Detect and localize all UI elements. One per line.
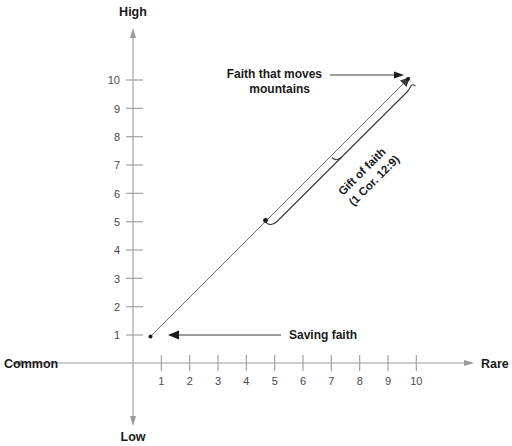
datapoint-faith-moves-mountains	[406, 77, 410, 81]
axis-label-low: Low	[121, 430, 146, 444]
saving-faith-label: Saving faith	[289, 328, 357, 342]
faith-continuum-chart: 1 2 3 4 5 6 7 8 9 10 1 2	[0, 0, 512, 446]
axes-group	[12, 28, 474, 426]
axis-label-rare: Rare	[481, 357, 509, 371]
x-tick-label-4: 4	[243, 375, 249, 387]
y-axis-ticks: 1 2 3 4 5 6 7 8 9 10	[108, 74, 143, 341]
y-tick-label-7: 7	[114, 159, 120, 171]
x-tick-label-9: 9	[385, 375, 391, 387]
x-axis-ticks: 1 2 3 4 5 6 7 8 9 10	[158, 355, 422, 387]
y-tick-label-3: 3	[114, 273, 120, 285]
saving-faith-callout-arrowhead	[168, 331, 179, 340]
annotation-gift-of-faith: Gift of faith (1 Cor. 12:9)	[336, 142, 402, 208]
y-tick-label-10: 10	[108, 74, 120, 86]
y-tick-label-6: 6	[114, 188, 120, 200]
mountains-label-line2: mountains	[249, 82, 310, 96]
x-tick-label-7: 7	[328, 375, 334, 387]
x-tick-label-6: 6	[300, 375, 306, 387]
x-tick-label-5: 5	[272, 375, 278, 387]
mountains-label-line1: Faith that moves	[227, 67, 323, 81]
datapoint-saving-faith	[149, 335, 153, 339]
axis-label-high: High	[119, 5, 147, 19]
y-tick-label-8: 8	[114, 131, 120, 143]
y-tick-label-4: 4	[114, 244, 120, 256]
chart-canvas: 1 2 3 4 5 6 7 8 9 10 1 2	[0, 0, 512, 446]
x-axis-right-arrowhead	[464, 360, 474, 366]
y-axis-down-arrowhead	[130, 416, 136, 426]
x-tick-label-10: 10	[410, 375, 422, 387]
series-diagonal-line	[152, 82, 405, 335]
annotation-saving-faith: Saving faith	[168, 328, 357, 342]
y-tick-label-2: 2	[114, 301, 120, 313]
x-tick-label-1: 1	[158, 375, 164, 387]
x-tick-label-8: 8	[357, 375, 363, 387]
x-tick-label-3: 3	[215, 375, 221, 387]
y-tick-label-5: 5	[114, 216, 120, 228]
series-faith-continuum	[149, 77, 411, 339]
y-tick-label-9: 9	[114, 103, 120, 115]
mountains-callout-arrowhead	[394, 72, 404, 79]
y-axis-up-arrowhead	[130, 28, 136, 38]
y-tick-label-1: 1	[114, 329, 120, 341]
x-tick-label-2: 2	[187, 375, 193, 387]
annotation-faith-that-moves-mountains: Faith that moves mountains	[227, 67, 404, 96]
axis-label-common: Common	[4, 357, 58, 371]
